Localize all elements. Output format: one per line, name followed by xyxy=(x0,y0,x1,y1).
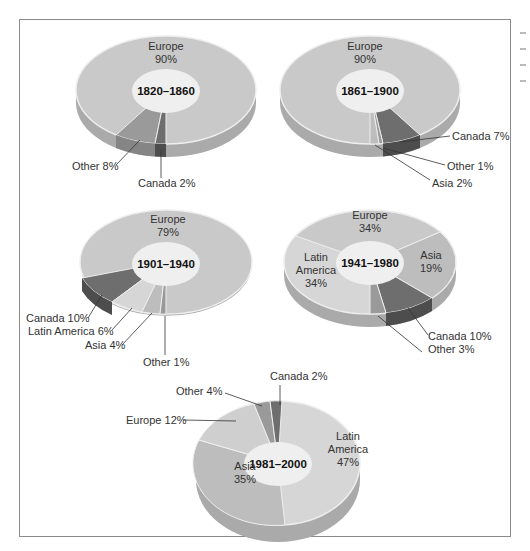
label-latin-america: Latin xyxy=(336,430,360,442)
label-latin-america: Latin xyxy=(304,251,328,263)
label-asia: Asia xyxy=(420,249,442,261)
pie-title: 1941–1980 xyxy=(341,257,399,269)
pie-1820-1860: 1820–1860 Europe 90% Other 8% Canada 2% xyxy=(72,36,256,189)
label-asia: Asia 4% xyxy=(85,339,126,351)
label-europe: Europe xyxy=(148,40,183,52)
label-latin-america-2: America xyxy=(296,264,337,276)
label-canada: Canada 2% xyxy=(138,177,196,189)
pie-1981-2000: 1981–2000 Asia 35% Latin America 47% Can… xyxy=(126,370,369,542)
pie-title: 1981–2000 xyxy=(249,458,307,470)
immigration-pie-charts: 1820–1860 Europe 90% Other 8% Canada 2% … xyxy=(0,0,530,551)
label-canada: Canada 7% xyxy=(452,130,510,142)
label-europe: Europe xyxy=(352,209,387,221)
label-europe: Europe xyxy=(150,213,185,225)
label-canada: Canada 10% xyxy=(428,330,492,342)
pie-title: 1820–1860 xyxy=(137,85,195,97)
label-other: Other 4% xyxy=(176,385,223,397)
label-canada: Canada 2% xyxy=(270,370,328,382)
label-latin-america-pct: 47% xyxy=(337,456,359,468)
label-asia: Asia 2% xyxy=(432,177,473,189)
label-asia-pct: 19% xyxy=(420,262,442,274)
label-europe-pct: 79% xyxy=(157,226,179,238)
pie-title: 1901–1940 xyxy=(137,258,195,270)
pie-1941-1980: 1941–1980 Europe 34% Asia 19% Latin Amer… xyxy=(284,209,492,355)
pie-1901-1940: 1901–1940 Europe 79% Canada 10% Latin Am… xyxy=(26,210,252,368)
label-latin-america-pct: 34% xyxy=(305,277,327,289)
label-canada: Canada 10% xyxy=(26,312,90,324)
label-europe-pct: 90% xyxy=(155,53,177,65)
label-europe: Europe xyxy=(347,40,382,52)
pie-1861-1900: 1861–1900 Europe 90% Canada 7% Other 1% … xyxy=(280,36,510,189)
label-latin-america-2: America xyxy=(328,443,369,455)
label-asia-pct: 35% xyxy=(234,473,256,485)
label-europe: Europe 12% xyxy=(126,414,187,426)
label-europe-pct: 34% xyxy=(359,222,381,234)
label-other: Other 8% xyxy=(72,160,119,172)
label-europe-pct: 90% xyxy=(354,53,376,65)
label-other: Other 1% xyxy=(143,356,190,368)
label-latin-america: Latin America 6% xyxy=(28,325,114,337)
label-asia: Asia xyxy=(234,460,256,472)
label-other: Other 1% xyxy=(447,160,494,172)
pie-title: 1861–1900 xyxy=(341,85,399,97)
label-other: Other 3% xyxy=(428,343,475,355)
